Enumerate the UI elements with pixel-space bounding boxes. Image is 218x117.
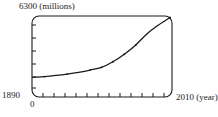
population-curve	[33, 18, 170, 78]
data-point	[44, 76, 46, 78]
data-point	[66, 73, 68, 75]
y-axis-max-label: 6300 (millions)	[19, 1, 75, 11]
data-point	[112, 61, 114, 63]
data-point	[123, 53, 125, 55]
y-axis-ticks	[32, 25, 36, 88]
data-point-markers	[44, 17, 171, 78]
plot-frame	[32, 16, 172, 97]
data-point	[135, 44, 137, 46]
data-point	[101, 66, 103, 68]
x-axis-start-label: 1890	[2, 90, 20, 100]
data-point	[169, 17, 171, 19]
x-axis-origin-label: 0	[30, 99, 35, 109]
population-growth-chart: 6300 (millions) 1890 0 2010 (year)	[0, 0, 218, 117]
data-point	[89, 69, 91, 71]
x-axis-ticks	[43, 93, 164, 97]
x-axis-end-label: 2010 (year)	[176, 92, 218, 102]
